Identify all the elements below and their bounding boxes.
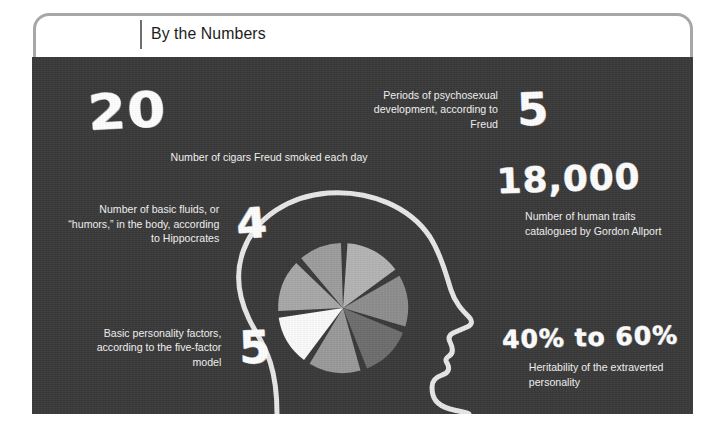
fact-psychosexual-number: 5 — [516, 86, 550, 132]
fact-five-factor-number: 5 — [238, 324, 272, 370]
header: By the Numbers — [140, 17, 274, 51]
pie-slice-2 — [343, 276, 408, 327]
fact-traits-caption: Number of human traits catalogued by Gor… — [525, 209, 686, 238]
fact-heritability-caption: Heritability of the extraverted personal… — [529, 360, 686, 389]
fact-humors: Number of basic fluids, or “humors,” in … — [58, 202, 267, 246]
fact-psychosexual: Periods of psychosexual development, acc… — [352, 87, 549, 132]
dark-content-panel: 20 Number of cigars Freud smoked each da… — [32, 57, 693, 414]
fact-cigars: 20 Number of cigars Freud smoked each da… — [74, 87, 376, 165]
fact-cigars-caption: Number of cigars Freud smoked each day — [171, 150, 368, 165]
infographic-page: By the Numbers 20 Number of ciga — [0, 0, 724, 436]
pie-slice-4 — [310, 308, 361, 373]
fact-humors-caption: Number of basic fluids, or “humors,” in … — [65, 202, 220, 246]
fact-five-factor-caption: Basic personality factors, according to … — [69, 326, 222, 370]
head-profile-outline — [238, 193, 471, 414]
fact-humors-number: 4 — [235, 202, 270, 246]
pie-slice-1 — [343, 243, 395, 308]
fact-traits: 18,000 Number of human traits catalogued… — [498, 162, 693, 238]
fact-five-factor: Basic personality factors, according to … — [62, 325, 271, 370]
fact-cigars-number: 20 — [87, 85, 168, 138]
pie-slice-5-highlight — [279, 308, 343, 360]
pie-background — [278, 243, 408, 373]
fact-traits-number: 18,000 — [496, 159, 641, 199]
pie-slice-3 — [343, 308, 403, 368]
fact-heritability-number: 40% to 60% — [502, 323, 679, 353]
pie-slice-7 — [301, 243, 343, 308]
pie-chart — [278, 243, 408, 373]
page-title: By the Numbers — [151, 24, 266, 44]
fact-heritability: 40% to 60% Heritability of the extravert… — [502, 325, 693, 389]
fact-psychosexual-caption: Periods of psychosexual development, acc… — [358, 88, 498, 132]
header-divider-rule — [140, 20, 142, 49]
pie-slice-6 — [278, 263, 343, 311]
